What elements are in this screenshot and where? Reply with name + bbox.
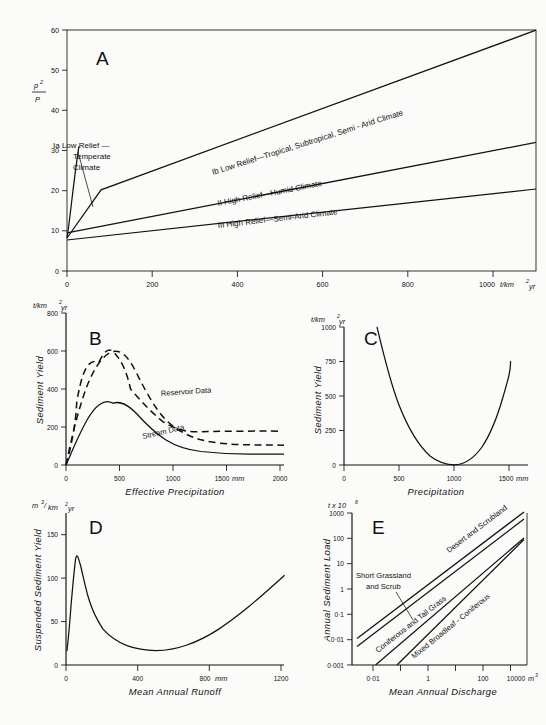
panel-d-ytick-100: 100 (47, 575, 58, 582)
panel-c-ytick-750: 750 (325, 358, 336, 365)
panel-d-xtick-1200: 1200 (274, 675, 289, 682)
panel-d-yunit-main: m (32, 501, 38, 510)
panel-e-ytick-0-01: 0·01 (331, 636, 345, 643)
panel-b-ytick-600: 600 (47, 348, 58, 355)
panel-a-ytick-50: 50 (51, 66, 59, 75)
panel-b-ytick-800: 800 (47, 310, 58, 317)
panel-c-ytick-1000: 1000 (321, 324, 336, 331)
panel-e-label-short-grassland-line2: and Scrub (366, 582, 401, 591)
panel-a-ylabel-exponent: 2 (39, 79, 43, 85)
panel-a-ytick-60: 60 (51, 26, 59, 35)
panel-e-xunit-main: m (528, 674, 534, 683)
panel-a-letter: A (96, 48, 109, 69)
panel-e-y-axis-title: Annual Sediment Load (321, 538, 332, 642)
panel-a-ytick-0: 0 (55, 267, 59, 276)
panel-b-xtick-1500: 1500 (215, 475, 230, 482)
panel-d-x-axis-title: Mean Annual Runoff (129, 686, 222, 697)
panel-d-yunit-tail: yr (67, 504, 75, 513)
panel-a-ytick-40: 40 (51, 106, 59, 115)
panel-a-xtick-600: 600 (317, 280, 329, 289)
figure-canvas: 0 10 20 30 40 50 60 p 2 P 0 200 400 600 … (0, 0, 546, 725)
panel-a-xtick-0: 0 (65, 280, 69, 289)
panel-c-x-axis-title: Precipitation (408, 486, 465, 497)
panel-b-letter: B (89, 328, 102, 349)
panel-c-yunit-tail: yr (338, 317, 346, 326)
panel-b-yunit-main: t/km (33, 301, 47, 310)
panel-b-xtick-500: 500 (114, 475, 125, 482)
panel-b-yunit-tail: yr (60, 303, 68, 312)
panel-c-ytick-250: 250 (325, 427, 336, 434)
panel-b-ytick-0: 0 (54, 462, 58, 469)
panel-c-xtick-1500: 1500 (499, 475, 514, 482)
panel-e-label-short-grassland-line1: Short Grassland (356, 571, 411, 580)
panel-d-yunit-denominator: km (48, 503, 58, 512)
panel-a-xtick-200: 200 (146, 280, 158, 289)
scientific-figure-sediment-yield: 0 10 20 30 40 50 60 p 2 P 0 200 400 600 … (0, 0, 546, 725)
panel-a-xunit-main: t/km (500, 280, 514, 289)
panel-e-ytick-1: 1 (340, 586, 344, 593)
panel-e-xtick-10000: 10000 (507, 675, 526, 682)
panel-e-yunit-main: t x 10 (328, 501, 347, 510)
panel-c-ytick-0: 0 (332, 462, 336, 469)
panel-e-xtick-1: 1 (426, 675, 430, 682)
panel-c-y-axis-title: Sediment Yield (312, 365, 323, 434)
panel-a-label-ia-line1: Ia Low Relief — (53, 141, 109, 150)
panel-d-ytick-150: 150 (47, 531, 58, 538)
panel-c-xtick-0: 0 (342, 475, 346, 482)
panel-e-ytick-1000: 1000 (329, 510, 344, 517)
panel-e-x-axis-title: Mean Annual Discharge (389, 686, 497, 697)
panel-e-letter: E (372, 517, 385, 538)
panel-c-xtick-500: 500 (393, 475, 404, 482)
panel-d-xtick-0: 0 (64, 675, 68, 682)
panel-b-xtick-1000: 1000 (166, 475, 181, 482)
panel-d-letter: D (89, 517, 103, 538)
panel-d-xtick-400: 400 (132, 675, 143, 682)
panel-b-xtick-2000: 2000 (273, 475, 288, 482)
panel-c-xunit: mm (516, 474, 528, 483)
panel-a-xtick-1000: 1000 (479, 280, 495, 289)
panel-b-xtick-0: 0 (64, 475, 68, 482)
panel-b-y-axis-title: Sediment Yield (34, 355, 45, 424)
panel-c-letter: C (364, 328, 378, 349)
panel-a-ytick-10: 10 (51, 226, 59, 235)
panel-a-label-ia-line3: Climate (73, 163, 101, 172)
panel-a-xunit-tail: yr (528, 282, 536, 291)
panel-e-yunit-exponent: 6 (355, 499, 358, 505)
panel-b-ytick-200: 200 (47, 424, 58, 431)
panel-b-xunit: mm (232, 474, 244, 483)
panel-d-ytick-0: 0 (54, 662, 58, 669)
panel-d-xtick-800: 800 (199, 675, 210, 682)
panel-e-ytick-0-001: 0·001 (327, 662, 344, 669)
panel-c-xtick-1000: 1000 (447, 475, 462, 482)
panel-e-xtick-0-01: 0·01 (366, 675, 380, 682)
panel-e-ytick-0-1: 0·1 (334, 611, 344, 618)
panel-d-ytick-50: 50 (51, 618, 59, 625)
panel-c-ytick-500: 500 (325, 393, 336, 400)
panel-a-ytick-20: 20 (51, 186, 59, 195)
panel-a-ylabel-denominator: P (35, 95, 40, 104)
panel-c-yunit-main: t/km (311, 315, 325, 324)
panel-e-ytick-10: 10 (337, 560, 345, 567)
panel-e-xtick-100: 100 (477, 675, 488, 682)
panel-b-ytick-400: 400 (47, 386, 58, 393)
panel-a-xtick-800: 800 (402, 280, 414, 289)
panel-a-ylabel-numerator: p (33, 81, 38, 90)
panel-d-xunit: mm (215, 674, 227, 683)
panel-d-y-axis-title: Suspended Sediment Yield (32, 528, 43, 651)
panel-e-ytick-100: 100 (333, 535, 344, 542)
panel-b-x-axis-title: Effective Precipitation (125, 486, 224, 497)
panel-a-xtick-400: 400 (231, 280, 243, 289)
panel-e-xunit-exponent: 3 (535, 672, 538, 678)
